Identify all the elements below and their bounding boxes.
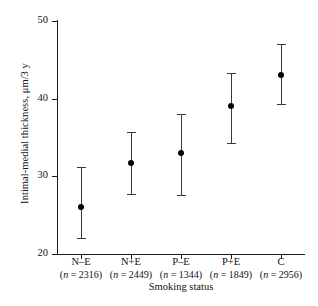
y-tick-label-30: 30 [38,169,49,180]
y-tick-50: 50 [52,21,57,22]
error-bar-cap-lower [77,238,86,239]
error-bar-cap-upper [177,114,186,115]
y-axis-title: Intimal-medial thickness, μm/3 y [19,24,30,244]
data-point-marker[interactable] [128,160,134,166]
data-point-marker[interactable] [228,103,234,109]
y-tick-label-40: 40 [38,92,49,103]
x-tick-label-category: C [245,256,317,269]
error-bar-cap-lower [127,194,136,195]
x-tick-label-group: C (n = 2956) [245,256,317,281]
error-bar-cap-lower [277,104,286,105]
error-bar-cap-lower [177,195,186,196]
error-bar-cap-lower [227,143,236,144]
error-bar-cap-upper [227,73,236,74]
data-point-marker[interactable] [78,204,84,210]
error-bar-line [81,167,82,238]
plot-area: 50 40 30 20 [57,21,305,254]
error-bar-cap-upper [127,132,136,133]
y-tick-40: 40 [52,99,57,100]
y-tick-label-50: 50 [38,14,49,25]
data-point-marker[interactable] [278,72,284,78]
x-tick-label-n: (n = 2956) [245,269,317,282]
y-tick-30: 30 [52,176,57,177]
chart-figure: Intimal-medial thickness, μm/3 y 50 40 3… [0,0,318,306]
y-tick-20: 20 [52,254,57,255]
error-bar-cap-upper [277,44,286,45]
error-bar-cap-upper [77,167,86,168]
data-point-marker[interactable] [178,150,184,156]
x-axis-title: Smoking status [57,281,305,292]
